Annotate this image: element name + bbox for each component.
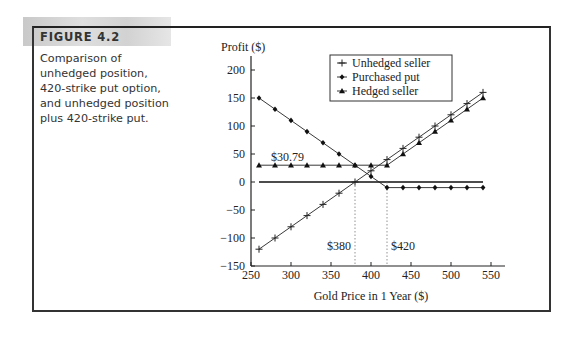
x-tick-label: 350 bbox=[322, 268, 340, 282]
data-point bbox=[448, 111, 455, 118]
data-point bbox=[289, 118, 294, 124]
y-tick-label: 200 bbox=[227, 63, 245, 77]
data-point bbox=[273, 106, 278, 112]
x-tick-label: 500 bbox=[442, 268, 460, 282]
data-point bbox=[369, 174, 374, 180]
data-point bbox=[480, 89, 487, 96]
data-point bbox=[305, 129, 310, 135]
y-tick-label: 0 bbox=[239, 175, 245, 189]
data-point bbox=[321, 140, 326, 146]
data-point bbox=[368, 167, 375, 174]
profit-chart: −150−100−5005010015020025030035040045050… bbox=[0, 0, 581, 337]
series-unhedged-seller bbox=[256, 89, 487, 253]
data-point bbox=[337, 151, 342, 157]
data-point bbox=[433, 185, 438, 191]
x-tick-label: 300 bbox=[282, 268, 300, 282]
data-point bbox=[416, 140, 422, 145]
data-point bbox=[464, 106, 470, 111]
data-point bbox=[352, 179, 359, 186]
series-group bbox=[256, 89, 487, 253]
data-point bbox=[256, 246, 263, 253]
legend-label: Unhedged seller bbox=[352, 56, 430, 70]
series-purchased-put bbox=[257, 95, 486, 190]
data-point bbox=[288, 223, 295, 230]
data-point bbox=[481, 185, 486, 191]
data-point bbox=[385, 185, 390, 191]
x-tick-label: 450 bbox=[402, 268, 420, 282]
data-point bbox=[464, 100, 471, 107]
data-point bbox=[480, 95, 486, 100]
x-tick-label: 400 bbox=[362, 268, 380, 282]
y-tick-label: −50 bbox=[226, 203, 245, 217]
data-point bbox=[400, 145, 407, 152]
data-point bbox=[304, 212, 311, 219]
data-point bbox=[417, 185, 422, 191]
data-point bbox=[432, 129, 438, 134]
data-point bbox=[401, 185, 406, 191]
y-tick-label: 150 bbox=[227, 91, 245, 105]
y-axis-label: Profit ($) bbox=[221, 40, 265, 54]
data-point bbox=[416, 134, 423, 141]
x-tick-label: 250 bbox=[242, 268, 260, 282]
data-point bbox=[400, 151, 406, 156]
annotation-label: $30.79 bbox=[271, 150, 304, 164]
legend: Unhedged seller Purchased put Hedged sel… bbox=[330, 55, 452, 101]
x-axis-label: Gold Price in 1 Year ($) bbox=[314, 289, 429, 303]
legend-label: Purchased put bbox=[352, 70, 420, 84]
y-tick-label: 50 bbox=[233, 147, 245, 161]
data-point bbox=[272, 235, 279, 242]
legend-label: Hedged seller bbox=[352, 84, 418, 98]
data-point bbox=[320, 201, 327, 208]
data-point bbox=[449, 185, 454, 191]
data-point bbox=[257, 95, 262, 101]
x-tick-label: 550 bbox=[482, 268, 500, 282]
reference-line-label: $380 bbox=[327, 239, 351, 253]
reference-line-label: $420 bbox=[391, 239, 415, 253]
y-tick-label: 100 bbox=[227, 119, 245, 133]
y-tick-label: −100 bbox=[220, 231, 245, 245]
data-point bbox=[432, 123, 439, 130]
data-point bbox=[465, 185, 470, 191]
data-point bbox=[448, 117, 454, 122]
data-point bbox=[336, 190, 343, 197]
data-point bbox=[384, 156, 391, 163]
